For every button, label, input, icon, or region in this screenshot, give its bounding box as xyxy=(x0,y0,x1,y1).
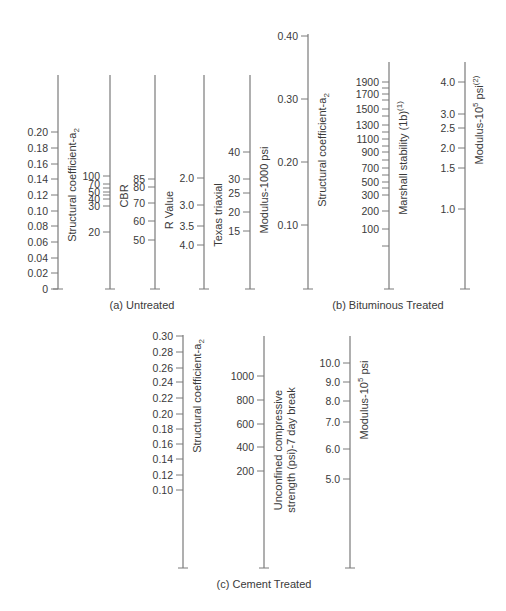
svg-text:Marshall stability (1b)(1): Marshall stability (1b)(1) xyxy=(395,101,409,215)
tick-label: 3.5 xyxy=(179,220,194,232)
tick-label: 0.28 xyxy=(153,346,174,358)
scale-title: Structural coefficient-a2 xyxy=(66,128,81,242)
svg-text:Texas triaxial: Texas triaxial xyxy=(212,183,224,247)
tick-label: 0.18 xyxy=(153,423,174,435)
scale-texas-triaxial: 2.03.03.54.0Texas triaxial xyxy=(179,75,224,289)
tick-label: 15 xyxy=(228,225,240,237)
tick-label: 0.22 xyxy=(153,392,174,404)
tick-label: 1300 xyxy=(356,119,380,131)
tick-label: 0.24 xyxy=(153,376,174,388)
tick-label: 3.0 xyxy=(179,199,194,211)
tick-label: 0.14 xyxy=(153,453,174,465)
panel-cement-treated: 0.300.280.260.240.220.200.180.160.140.12… xyxy=(153,330,370,590)
tick-label: 3.0 xyxy=(440,108,455,120)
tick-label: 0.30 xyxy=(153,330,174,342)
tick-label: 50 xyxy=(133,234,145,246)
svg-text:Structural coefficient-a2: Structural coefficient-a2 xyxy=(316,93,331,207)
tick-label: 1100 xyxy=(356,133,379,145)
panel-caption: (c) Cement Treated xyxy=(217,578,312,590)
svg-text:Modulus-105 psi: Modulus-105 psi xyxy=(356,360,370,439)
tick-label: 80 xyxy=(133,181,145,193)
tick-label: 1000 xyxy=(231,370,255,382)
tick-label: 30 xyxy=(228,173,240,185)
panel-untreated: 0.200.180.160.140.120.100.080.060.040.02… xyxy=(28,75,270,311)
scale-marshall-stability: 19001700150013001100900700500300200100Ma… xyxy=(356,62,409,289)
tick-label: 0.08 xyxy=(28,220,49,232)
scale-unconfined-compressive-strength: 1000800600400200Unconfined compressivest… xyxy=(231,336,297,568)
tick-label: 200 xyxy=(236,465,254,477)
tick-label: 7.0 xyxy=(325,416,340,428)
scale-title: R Value xyxy=(163,191,175,229)
tick-label: 0.20 xyxy=(278,156,299,168)
tick-label: 5.0 xyxy=(325,473,340,485)
tick-label: 30 xyxy=(88,200,100,212)
tick-label: 0.02 xyxy=(28,267,49,279)
tick-label: 1.5 xyxy=(440,162,455,174)
tick-label: 0.14 xyxy=(28,173,49,185)
svg-text:CBR: CBR xyxy=(118,184,130,207)
tick-label: 20 xyxy=(228,206,240,218)
svg-text:Structural coefficient-a2: Structural coefficient-a2 xyxy=(191,339,206,453)
scale-modulus-1000-psi: 4030252015Modulus-1000 psi xyxy=(228,75,270,289)
scale-modulus-10-5-psi: 10.09.08.07.06.05.0Modulus-105 psi xyxy=(320,336,370,568)
tick-label: 0.26 xyxy=(153,362,174,374)
tick-label: 4.0 xyxy=(179,239,194,251)
tick-label: 0.10 xyxy=(28,205,49,217)
tick-label: 20 xyxy=(88,226,100,238)
svg-text:Unconfined compressive: Unconfined compressive xyxy=(272,390,284,510)
tick-label: 8.0 xyxy=(325,395,340,407)
tick-label: 2.5 xyxy=(440,122,455,134)
scale-title: Structural coefficient-a2 xyxy=(191,339,206,453)
tick-label: 0.10 xyxy=(278,219,299,231)
tick-label: 100 xyxy=(361,223,379,235)
tick-label: 0.20 xyxy=(28,126,49,138)
svg-text:Structural coefficient-a2: Structural coefficient-a2 xyxy=(66,128,81,242)
tick-label: 2.0 xyxy=(440,142,455,154)
tick-label: 0.16 xyxy=(153,438,174,450)
tick-label: 40 xyxy=(228,146,240,158)
tick-label: 9.0 xyxy=(325,376,340,388)
scale-modulus-10-5-psi: 4.03.02.52.01.51.0Modulus-105 psi(2) xyxy=(440,62,485,289)
tick-label: 70 xyxy=(133,197,145,209)
tick-label: 600 xyxy=(236,418,254,430)
tick-label: 4.0 xyxy=(440,76,455,88)
tick-label: 10.0 xyxy=(320,357,341,369)
svg-text:Modulus-105 psi(2): Modulus-105 psi(2) xyxy=(471,75,485,164)
tick-label: 25 xyxy=(228,187,240,199)
tick-label: 800 xyxy=(236,394,254,406)
scale-title: Modulus-1000 psi xyxy=(258,147,270,234)
tick-label: 0.30 xyxy=(278,93,299,105)
nomograph-figure: 0.200.180.160.140.120.100.080.060.040.02… xyxy=(0,0,506,611)
panel-caption: (b) Bituminous Treated xyxy=(332,299,443,311)
svg-text:R Value: R Value xyxy=(163,191,175,229)
svg-text:strength (psi)-7 day break: strength (psi)-7 day break xyxy=(285,387,297,513)
scale-title: Modulus-105 psi xyxy=(356,360,370,439)
scale-title: CBR xyxy=(118,184,130,207)
tick-label: 500 xyxy=(361,176,379,188)
tick-label: 0.12 xyxy=(28,189,49,201)
tick-label: 700 xyxy=(361,162,379,174)
tick-label: 0.40 xyxy=(278,30,299,42)
scale-structural-coefficient-a2: 0.300.280.260.240.220.200.180.160.140.12… xyxy=(153,330,206,568)
tick-label: 0.06 xyxy=(28,236,49,248)
scale-title: Modulus-105 psi(2) xyxy=(471,75,485,164)
tick-label: 1900 xyxy=(356,76,380,88)
tick-label: 900 xyxy=(361,146,379,158)
tick-label: 60 xyxy=(133,215,145,227)
panel-caption: (a) Untreated xyxy=(110,299,175,311)
tick-label: 0.16 xyxy=(28,158,49,170)
panel-bituminous-treated: 0.400.300.200.10Structural coefficient-a… xyxy=(278,30,485,311)
tick-label: 0.18 xyxy=(28,142,49,154)
tick-label: 400 xyxy=(236,441,254,453)
scale-title: Texas triaxial xyxy=(212,183,224,247)
scale-title: Marshall stability (1b)(1) xyxy=(395,101,409,215)
tick-label: 6.0 xyxy=(325,443,340,455)
tick-label: 200 xyxy=(361,205,379,217)
scale-structural-coefficient-a2: 0.200.180.160.140.120.100.080.060.040.02… xyxy=(28,75,81,295)
tick-label: 0.04 xyxy=(28,252,49,264)
scale-r-value: 8580706050R Value xyxy=(133,75,175,289)
scale-structural-coefficient-a2: 0.400.300.200.10Structural coefficient-a… xyxy=(278,30,331,289)
tick-label: 0 xyxy=(42,283,48,295)
scale-cbr: 1007050403020CBR xyxy=(82,75,130,289)
tick-label: 300 xyxy=(361,189,379,201)
